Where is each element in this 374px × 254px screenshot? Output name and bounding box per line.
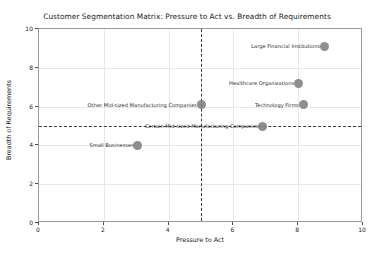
x-tick-label: 10 bbox=[358, 226, 366, 233]
y-tick-label: 4 bbox=[29, 141, 33, 148]
x-tick bbox=[168, 222, 169, 225]
x-tick bbox=[232, 222, 233, 225]
data-point[interactable] bbox=[197, 100, 206, 109]
y-tick bbox=[35, 28, 38, 29]
data-point[interactable] bbox=[320, 42, 329, 51]
y-tick bbox=[35, 183, 38, 184]
x-tick-label: 8 bbox=[295, 226, 299, 233]
y-tick bbox=[35, 222, 38, 223]
gridline-horizontal bbox=[39, 68, 361, 69]
x-tick bbox=[297, 222, 298, 225]
y-tick-label: 0 bbox=[29, 219, 33, 226]
gridline-horizontal bbox=[39, 145, 361, 146]
data-point-label: Technology Firms bbox=[255, 102, 303, 108]
y-tick-label: 10 bbox=[25, 25, 33, 32]
data-point-label: Small Businesses bbox=[89, 142, 137, 148]
data-point-label: Healthcare Organizations bbox=[229, 80, 298, 86]
data-point[interactable] bbox=[299, 100, 308, 109]
data-point-label: Certain Mid-sized Manufacturing Companie… bbox=[145, 123, 263, 129]
chart-title: Customer Segmentation Matrix: Pressure t… bbox=[0, 12, 374, 21]
x-tick-label: 4 bbox=[166, 226, 170, 233]
gridline-vertical bbox=[104, 29, 105, 221]
plot-area: Large Financial InstitutionsHealthcare O… bbox=[38, 28, 362, 222]
x-tick bbox=[38, 222, 39, 225]
y-tick-label: 8 bbox=[29, 63, 33, 70]
gridline-horizontal bbox=[39, 184, 361, 185]
x-axis-label: Pressure to Act bbox=[38, 236, 362, 244]
y-tick bbox=[35, 144, 38, 145]
x-tick-label: 2 bbox=[101, 226, 105, 233]
data-point-label: Large Financial Institutions bbox=[251, 43, 324, 49]
chart-figure: Customer Segmentation Matrix: Pressure t… bbox=[0, 0, 374, 254]
x-tick-label: 6 bbox=[230, 226, 234, 233]
y-tick bbox=[35, 67, 38, 68]
y-tick-label: 2 bbox=[29, 180, 33, 187]
y-axis-label: Breadth of Requirements bbox=[5, 23, 13, 217]
data-point-label: Other Mid-sized Manufacturing Companies bbox=[88, 102, 201, 108]
y-tick bbox=[35, 106, 38, 107]
data-point[interactable] bbox=[258, 122, 267, 131]
data-point[interactable] bbox=[133, 141, 142, 150]
y-tick-label: 6 bbox=[29, 102, 33, 109]
data-point[interactable] bbox=[294, 79, 303, 88]
gridline-vertical bbox=[298, 29, 299, 221]
x-tick-label: 0 bbox=[36, 226, 40, 233]
x-tick bbox=[362, 222, 363, 225]
x-tick bbox=[103, 222, 104, 225]
